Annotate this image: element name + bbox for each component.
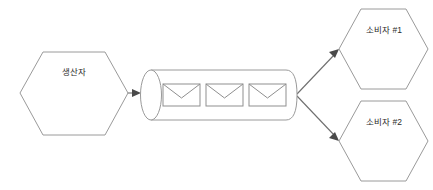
diagram-svg: 생산자 소비자 #1	[0, 0, 433, 190]
consumer-2-label: 소비자 #2	[366, 117, 402, 127]
consumer-2-hexagon-shape	[339, 101, 428, 181]
queue-cylinder-cap	[141, 70, 162, 120]
queue-message-3	[249, 84, 286, 106]
envelope-icon	[163, 84, 200, 106]
edge-queue-to-consumer-2-line	[297, 96, 335, 136]
producer-hexagon-shape	[20, 52, 128, 135]
consumer-1-label: 소비자 #1	[366, 25, 402, 35]
queue-message-2	[206, 84, 243, 106]
edge-queue-to-consumer-2-arrowhead	[329, 132, 339, 141]
edge-queue-to-consumer-1-arrowhead	[329, 49, 339, 58]
edge-queue-to-consumer-2	[297, 96, 339, 141]
diagram-canvas: 생산자 소비자 #1	[0, 0, 433, 190]
queue-message-1	[163, 84, 200, 106]
producer-label: 생산자	[62, 67, 86, 77]
edge-producer-to-queue-arrowhead	[132, 89, 141, 97]
consumer-1-hexagon-shape	[339, 9, 428, 89]
edge-queue-to-consumer-1-line	[297, 54, 335, 94]
node-queue[interactable]	[141, 70, 298, 120]
node-consumer-2[interactable]: 소비자 #2	[339, 101, 428, 181]
node-consumer-1[interactable]: 소비자 #1	[339, 9, 428, 89]
node-producer[interactable]: 생산자	[20, 52, 128, 135]
envelope-icon	[249, 84, 286, 106]
edge-queue-to-consumer-1	[297, 49, 339, 94]
envelope-icon	[206, 84, 243, 106]
